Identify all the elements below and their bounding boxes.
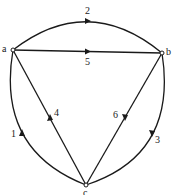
edge-2: 2 xyxy=(13,5,162,53)
node-a: a xyxy=(2,43,15,54)
node-label-a: a xyxy=(2,43,7,54)
edge-6: 6 xyxy=(86,53,162,185)
edge-5: 5 xyxy=(13,49,162,68)
edge-label-6: 6 xyxy=(113,109,118,120)
graph-diagram: 2 5 1 4 6 3 a b c xyxy=(0,0,175,195)
node-b: b xyxy=(160,46,171,57)
node-label-c: c xyxy=(83,187,88,195)
arrow-right-icon xyxy=(85,49,91,55)
arrow-right-icon xyxy=(85,18,91,24)
edge-label-2: 2 xyxy=(85,5,90,16)
node-c: c xyxy=(83,183,88,195)
edge-label-4: 4 xyxy=(54,107,59,118)
arrow-up-icon xyxy=(19,129,25,136)
edge-label-3: 3 xyxy=(155,134,160,145)
edge-label-1: 1 xyxy=(11,128,16,139)
node-label-b: b xyxy=(166,46,171,57)
edge-label-5: 5 xyxy=(85,56,90,67)
